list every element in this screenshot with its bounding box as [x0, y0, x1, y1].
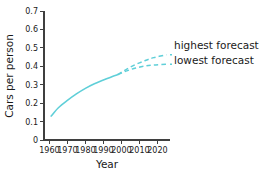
y-axis-tick-label: 0.3 [25, 81, 38, 90]
y-axis-tick-group: 00.10.20.30.40.50.60.7 [25, 7, 44, 145]
y-axis-tick-label: 0.7 [25, 7, 38, 16]
data-series-group [51, 55, 172, 116]
y-axis-tick-label: 0.6 [25, 25, 38, 34]
y-axis-title: Cars per person [3, 34, 15, 118]
x-axis-title: Year [95, 158, 119, 170]
cars-per-person-line-chart: 00.10.20.30.40.50.60.7 19601970198019902… [0, 0, 262, 174]
y-axis-tick-label: 0 [33, 136, 38, 145]
x-axis-tick-label: 2020 [147, 146, 167, 155]
y-axis-tick-label: 0.4 [25, 62, 38, 71]
series-historical [51, 75, 118, 116]
chart-container: 00.10.20.30.40.50.60.7 19601970198019902… [0, 0, 262, 174]
y-axis-tick-label: 0.2 [25, 99, 38, 108]
y-axis-tick-label: 0.5 [25, 44, 38, 53]
legend-label-lowest-forecast: lowest forecast [174, 54, 254, 66]
y-axis-tick-label: 0.1 [25, 118, 38, 127]
legend-label-highest-forecast: highest forecast [174, 39, 259, 51]
x-axis-tick-group: 1960197019801990200020102020 [39, 140, 167, 155]
